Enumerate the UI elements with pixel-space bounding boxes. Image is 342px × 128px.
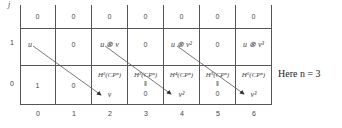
arrow-d-u — [33, 46, 101, 95]
arrow-d-uv — [105, 46, 171, 94]
arrow-d-uv2 — [177, 46, 244, 94]
differential-arrows — [0, 0, 342, 128]
annotation-note: Here n = 3 — [278, 68, 321, 79]
